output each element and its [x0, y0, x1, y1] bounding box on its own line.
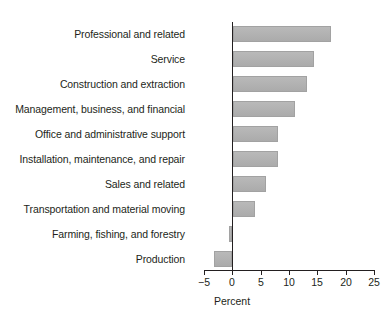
- x-tick-mark: [232, 270, 233, 275]
- x-tick-mark: [261, 270, 262, 275]
- bar-row: Production: [0, 247, 391, 272]
- bar-office-and-administrative-support: [233, 126, 278, 142]
- bar-installation-maintenance-and-repair: [233, 151, 278, 167]
- bar-service: [233, 51, 314, 67]
- category-label: Professional and related: [74, 22, 185, 47]
- bar-professional-and-related: [233, 26, 331, 42]
- category-label: Transportation and material moving: [24, 197, 185, 222]
- zero-axis-line: [232, 22, 233, 270]
- bar-row: Construction and extraction: [0, 72, 391, 97]
- x-tick-label: 20: [331, 276, 361, 288]
- bar-production: [214, 251, 232, 267]
- x-tick-label: 15: [302, 276, 332, 288]
- x-tick-label: 25: [359, 276, 389, 288]
- x-tick-label: −5: [189, 276, 219, 288]
- x-tick-mark: [204, 270, 205, 275]
- category-label: Sales and related: [105, 172, 185, 197]
- x-tick-mark: [317, 270, 318, 275]
- bar-chart: Professional and related Service Constru…: [0, 0, 391, 325]
- x-tick-label: 0: [217, 276, 247, 288]
- bar-sales-and-related: [233, 176, 266, 192]
- bar-construction-and-extraction: [233, 76, 307, 92]
- bar-management-business-and-financial: [233, 101, 295, 117]
- category-label: Office and administrative support: [35, 122, 185, 147]
- category-label: Service: [151, 47, 185, 72]
- x-tick-mark: [289, 270, 290, 275]
- bar-transportation-and-material-moving: [233, 201, 255, 217]
- bar-row: Professional and related: [0, 22, 391, 47]
- x-tick-mark: [374, 270, 375, 275]
- plot-area: Professional and related Service Constru…: [0, 0, 391, 325]
- category-label: Construction and extraction: [60, 72, 185, 97]
- x-axis-title: Percent: [157, 295, 307, 307]
- x-tick-label: 5: [246, 276, 276, 288]
- category-label: Management, business, and financial: [15, 97, 185, 122]
- x-tick-mark: [346, 270, 347, 275]
- category-label: Production: [136, 247, 185, 272]
- x-tick-label: 10: [274, 276, 304, 288]
- category-label: Farming, fishing, and forestry: [52, 222, 185, 247]
- category-label: Installation, maintenance, and repair: [19, 147, 185, 172]
- bar-row: Sales and related: [0, 172, 391, 197]
- bar-row: Office and administrative support: [0, 122, 391, 147]
- bar-row: Installation, maintenance, and repair: [0, 147, 391, 172]
- bar-row: Farming, fishing, and forestry: [0, 222, 391, 247]
- bar-row: Management, business, and financial: [0, 97, 391, 122]
- bar-row: Transportation and material moving: [0, 197, 391, 222]
- bar-row: Service: [0, 47, 391, 72]
